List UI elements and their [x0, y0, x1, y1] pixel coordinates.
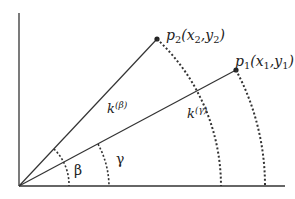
angle-arc-gamma — [98, 144, 109, 186]
label-angle-gamma: γ — [116, 152, 124, 166]
vector-p2 — [19, 39, 157, 186]
diagram-svg — [0, 0, 295, 199]
label-k-gamma: k(γ) — [187, 106, 207, 120]
diagram-canvas: p2(x2,y2) p1(x1,y1) k(β) k(γ) β γ — [0, 0, 295, 199]
label-angle-beta: β — [74, 163, 82, 177]
angle-arc-beta — [54, 149, 69, 186]
vector-p1 — [19, 70, 236, 186]
label-p2: p2(x2,y2) — [166, 28, 225, 45]
label-k-beta: k(β) — [107, 101, 127, 115]
label-p1: p1(x1,y1) — [235, 54, 294, 71]
arc-p1-rotation — [236, 70, 265, 186]
